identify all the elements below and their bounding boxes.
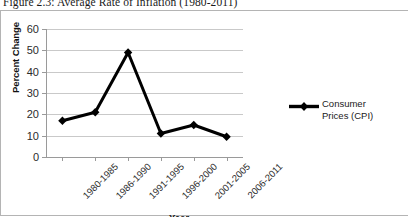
legend-marker-icon xyxy=(289,102,319,111)
chart-frame: Percent Change Year 0102030405060 1980-1… xyxy=(0,10,408,216)
x-axis-tick xyxy=(194,157,195,161)
plot-area: 0102030405060 1980-19851986-19901991-199… xyxy=(46,29,243,157)
y-axis-tick-label: 30 xyxy=(27,87,39,99)
y-axis-tick-label: 0 xyxy=(33,151,39,163)
legend-label: Consumer Prices (CPI) xyxy=(322,98,390,122)
data-point-marker xyxy=(190,121,198,129)
legend: Consumer Prices (CPI) xyxy=(289,98,390,122)
figure-caption: Figure 2.3: Average Rate of Inflation (1… xyxy=(3,0,238,8)
gridline xyxy=(46,157,243,158)
series-consumer-prices-cpi xyxy=(46,29,243,157)
data-point-marker xyxy=(157,129,165,137)
x-axis-tick xyxy=(161,157,162,161)
series-line xyxy=(62,52,226,136)
x-axis-tick xyxy=(128,157,129,161)
x-axis-tick xyxy=(62,157,63,161)
y-axis-tick-label: 40 xyxy=(27,66,39,78)
data-point-marker xyxy=(58,117,66,125)
y-axis-tick-label: 50 xyxy=(27,44,39,56)
y-axis-tick xyxy=(42,157,46,158)
y-axis-tick-label: 20 xyxy=(27,108,39,120)
x-axis-tick xyxy=(227,157,228,161)
y-axis-tick-label: 10 xyxy=(27,130,39,142)
y-axis-tick-label: 60 xyxy=(27,23,39,35)
data-point-marker xyxy=(222,133,230,141)
x-axis-tick xyxy=(95,157,96,161)
x-axis-title: Year xyxy=(169,212,189,217)
y-axis-title: Percent Change xyxy=(10,22,21,93)
